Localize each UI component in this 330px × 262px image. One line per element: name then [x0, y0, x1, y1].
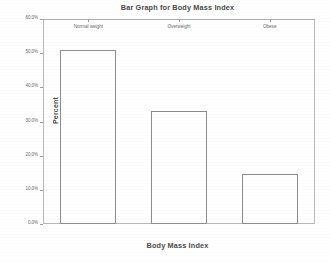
y-tick-mark: [40, 53, 43, 54]
y-tick-label: 40.0%: [25, 83, 38, 88]
x-tick-label: Obese: [224, 24, 315, 29]
x-tick-mark: [179, 19, 180, 22]
y-tick-mark: [40, 156, 43, 157]
y-tick-label: 60.0%: [25, 15, 38, 20]
y-tick-mark: [40, 19, 43, 20]
y-tick-label: 50.0%: [25, 49, 38, 54]
plot-area: Percent 0.0%10.0%20.0%30.0%40.0%50.0%60.…: [43, 19, 315, 224]
bar-overweight: [151, 111, 207, 224]
y-tick-mark: [40, 87, 43, 88]
y-tick-label: 10.0%: [25, 186, 38, 191]
y-tick-label: 30.0%: [25, 118, 38, 123]
bar-chart: Bar Graph for Body Mass Index Percent 0.…: [0, 0, 330, 262]
bar-obese: [242, 174, 298, 224]
x-tick-mark: [88, 19, 89, 22]
y-tick-mark: [40, 122, 43, 123]
x-tick-label: Overweight: [134, 24, 225, 29]
y-tick-mark: [40, 224, 43, 225]
bar-normal-weight: [60, 50, 116, 224]
y-tick-mark: [40, 190, 43, 191]
x-axis-title: Body Mass Index: [40, 241, 315, 250]
x-tick-mark: [270, 19, 271, 22]
y-axis-title: Percent: [52, 71, 59, 151]
x-tick-label: Normal weight: [43, 24, 134, 29]
y-tick-label: 0.0%: [28, 220, 38, 225]
y-tick-label: 20.0%: [25, 152, 38, 157]
chart-title: Bar Graph for Body Mass Index: [40, 3, 315, 12]
